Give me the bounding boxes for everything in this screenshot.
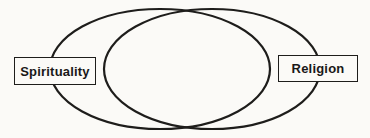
venn-diagram: Spirituality Religion (0, 0, 370, 138)
religion-label-box: Religion (278, 55, 358, 82)
religion-label: Religion (292, 61, 345, 76)
spirituality-label: Spirituality (20, 64, 90, 79)
spirituality-label-box: Spirituality (14, 57, 96, 85)
